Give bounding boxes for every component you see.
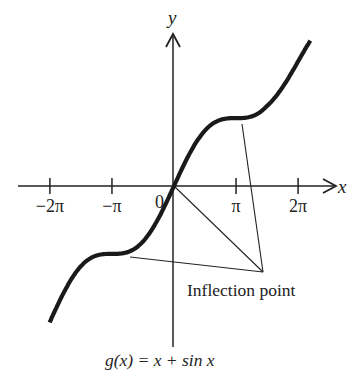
inflection-leader-lines <box>130 124 263 272</box>
leader-line-upper <box>242 124 263 272</box>
x-tick-label: −2π <box>36 196 64 216</box>
function-caption: g(x) = x + sin x <box>105 350 215 370</box>
inflection-point-label: Inflection point <box>187 280 296 300</box>
x-axis-label: x <box>337 176 347 197</box>
function-plot: x y −2π−ππ2π 0 Inflection point g(x) = x… <box>0 0 364 388</box>
y-axis-label: y <box>166 7 177 28</box>
x-ticks: −2π−ππ2π <box>36 178 307 216</box>
x-tick-label: 2π <box>289 196 307 216</box>
x-tick-label: π <box>231 196 240 216</box>
leader-line-origin <box>175 187 263 272</box>
leader-line-lower <box>130 257 263 272</box>
x-tick-label: −π <box>102 196 121 216</box>
